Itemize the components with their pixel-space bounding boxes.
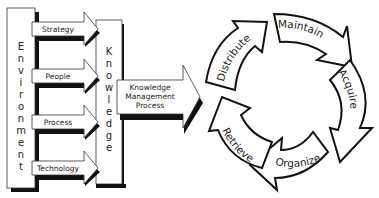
svg-text:i: i xyxy=(20,77,23,88)
kmp-line-3: Process xyxy=(136,101,165,110)
input-arrow-strategy: Strategy xyxy=(32,12,100,47)
svg-text:l: l xyxy=(108,94,111,105)
svg-text:t: t xyxy=(19,161,23,172)
input-arrow-people: People xyxy=(32,59,100,94)
svg-text:Technology: Technology xyxy=(36,164,80,173)
cycle-arrow-maintain: Maintain xyxy=(274,14,352,67)
svg-text:n: n xyxy=(18,113,24,124)
svg-text:d: d xyxy=(106,118,112,129)
svg-text:w: w xyxy=(105,82,113,93)
knowledge-management-diagram: E n v i r o n m e n t K n o w l e d g e … xyxy=(0,0,379,198)
svg-text:e: e xyxy=(106,106,112,117)
input-arrow-process: Process xyxy=(32,105,100,140)
cycle-arrow-retrieve: Retrieve xyxy=(209,97,272,168)
input-arrow-technology: Technology xyxy=(32,151,100,186)
kmp-line-2: Management xyxy=(125,92,174,101)
svg-text:m: m xyxy=(16,125,26,136)
svg-text:o: o xyxy=(18,101,24,112)
svg-text:People: People xyxy=(46,72,71,81)
svg-text:e: e xyxy=(18,137,24,148)
svg-text:v: v xyxy=(18,65,24,76)
svg-text:Process: Process xyxy=(44,118,73,127)
svg-text:e: e xyxy=(106,142,112,153)
kmp-line-1: Knowledge xyxy=(129,83,171,92)
cycle-arrow-acquire: Acquire xyxy=(330,60,372,162)
svg-text:E: E xyxy=(18,41,24,52)
kmp-arrow: Knowledge Management Process xyxy=(117,65,203,134)
svg-text:g: g xyxy=(106,130,112,141)
svg-text:o: o xyxy=(106,70,112,81)
svg-text:n: n xyxy=(18,149,24,160)
svg-text:n: n xyxy=(106,58,112,69)
svg-text:Strategy: Strategy xyxy=(42,25,75,34)
svg-text:K: K xyxy=(106,46,113,57)
cycle-arrow-distribute: Distribute xyxy=(206,21,267,90)
svg-text:n: n xyxy=(18,53,24,64)
